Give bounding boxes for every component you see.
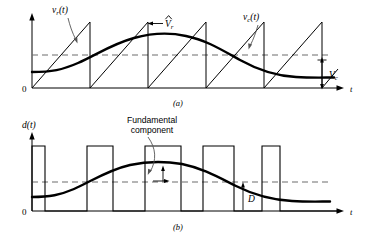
- pwm-figure: vr(t) Vr vc(t) Vc 0 t (a): [0, 0, 370, 240]
- vc-label-leader: [250, 25, 258, 46]
- panel-a-origin-label: 0: [22, 84, 27, 94]
- panel-a-y-axis: [29, 13, 34, 88]
- vr-label-leader: [68, 18, 76, 40]
- fundamental-ripple-arrow: [153, 166, 170, 183]
- figure-canvas: vr(t) Vr vc(t) Vc 0 t (a): [0, 0, 370, 240]
- panel-a-caption: (a): [173, 98, 183, 108]
- label-duty-D: D: [247, 194, 255, 204]
- panel-b-duty-dimension: [241, 182, 245, 210]
- panel-a-time-axis-label: t: [350, 84, 353, 94]
- panel-b: d(t) Fundamental component D 0 t (b): [22, 115, 353, 232]
- fundamental-label-leader: [148, 137, 155, 172]
- panel-b-caption: (b): [173, 222, 183, 232]
- panel-b-axis-label: d(t): [22, 120, 36, 131]
- panel-a-t-axis: [32, 85, 344, 90]
- panel-a: vr(t) Vr vc(t) Vc 0 t (a): [22, 5, 353, 108]
- label-vr-peak: Vr: [165, 19, 174, 30]
- vr-peak-arrow: [148, 22, 164, 26]
- label-vc-dc-level: Vc: [329, 70, 338, 81]
- fundamental-annotation-line1: Fundamental: [127, 115, 177, 125]
- panel-b-time-axis-label: t: [350, 207, 353, 217]
- fundamental-annotation-line2: component: [131, 125, 174, 135]
- label-vc: vc(t): [243, 12, 259, 23]
- label-vr: vr(t): [52, 5, 68, 16]
- panel-b-origin-label: 0: [22, 207, 27, 217]
